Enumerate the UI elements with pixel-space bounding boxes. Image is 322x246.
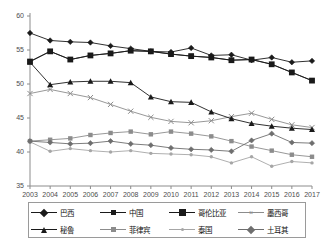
legend-glyph: × xyxy=(248,209,255,216)
legend-glyph xyxy=(40,208,48,216)
data-point-diamond xyxy=(47,38,52,43)
data-point-dot xyxy=(189,153,192,156)
data-point-square xyxy=(189,54,193,58)
data-point-triangle xyxy=(148,94,154,100)
data-point-dot xyxy=(169,152,172,155)
legend-item-3[interactable]: ×墨西哥 xyxy=(236,204,305,221)
data-point-dot xyxy=(69,147,72,150)
legend-glyph xyxy=(181,228,185,232)
data-point-square xyxy=(270,62,274,66)
x-axis-tick-label: 2012 xyxy=(201,191,221,198)
legend-item-label: 墨西哥 xyxy=(267,207,288,218)
data-point-cross xyxy=(269,117,274,122)
x-axis-tick-label: 2017 xyxy=(302,191,322,198)
data-point-triangle xyxy=(208,109,214,115)
data-point-square-gray xyxy=(229,139,233,143)
x-axis-tick-label: 2014 xyxy=(242,191,262,198)
data-point-square xyxy=(88,53,92,57)
data-point-dot xyxy=(89,149,92,152)
data-point-diamond-gray xyxy=(88,141,93,146)
x-axis-tick-label: 2007 xyxy=(101,191,121,198)
data-point-diamond xyxy=(229,52,234,57)
data-point-diamond-gray xyxy=(309,141,314,146)
data-point-diamond-gray xyxy=(269,131,274,136)
data-point-diamond-gray xyxy=(168,145,173,150)
legend-item-label: 巴西 xyxy=(60,207,74,218)
data-point-diamond-gray xyxy=(148,143,153,148)
legend-item-label: 土耳其 xyxy=(267,224,288,235)
data-point-dot xyxy=(270,165,273,168)
y-axis-tick-label: 40 xyxy=(8,148,24,155)
x-axis-tick-label: 2006 xyxy=(80,191,100,198)
x-axis-tick-label: 2013 xyxy=(221,191,241,198)
data-point-diamond-gray xyxy=(229,149,234,154)
legend-item-label: 中国 xyxy=(129,207,143,218)
data-point-square-gray xyxy=(189,131,193,135)
data-point-square xyxy=(68,57,72,61)
data-point-dot xyxy=(109,150,112,153)
data-point-diamond-gray xyxy=(209,147,214,152)
legend-glyph xyxy=(41,227,47,233)
data-point-dot xyxy=(149,152,152,155)
y-axis-tick-label: 50 xyxy=(8,80,24,87)
data-point-dot xyxy=(230,161,233,164)
data-point-diamond xyxy=(289,60,294,65)
x-axis-tick-label: 2015 xyxy=(262,191,282,198)
data-point-diamond-gray xyxy=(249,138,254,143)
data-point-square-gray xyxy=(169,129,173,133)
data-point-dot xyxy=(48,150,51,153)
legend-glyph xyxy=(111,227,116,232)
y-axis-tick-label: 35 xyxy=(8,182,24,189)
data-point-square-gray xyxy=(310,155,314,159)
data-point-square xyxy=(28,59,32,63)
legend-item-6[interactable]: 泰国 xyxy=(167,221,236,238)
legend-marker-triangle xyxy=(31,224,57,236)
data-point-square-gray xyxy=(290,153,294,157)
legend-item-0[interactable]: 巴西 xyxy=(29,204,98,221)
data-point-dot xyxy=(290,160,293,163)
data-point-square-gray xyxy=(88,133,92,137)
data-point-square xyxy=(108,51,112,55)
data-point-diamond xyxy=(88,40,93,45)
data-point-square xyxy=(229,58,233,62)
legend-marker-square xyxy=(100,207,126,219)
legend-item-7[interactable]: 土耳其 xyxy=(236,221,305,238)
data-point-cross xyxy=(128,109,133,114)
y-axis-tick-label: 60 xyxy=(8,12,24,19)
data-point-diamond-gray xyxy=(108,139,113,144)
data-point-diamond-gray xyxy=(68,141,73,146)
legend-glyph xyxy=(111,210,116,215)
legend-item-label: 菲律宾 xyxy=(129,224,150,235)
data-point-square-gray xyxy=(68,136,72,140)
data-point-diamond-gray xyxy=(289,140,294,145)
data-point-diamond-gray xyxy=(189,147,194,152)
data-point-diamond xyxy=(108,43,113,48)
data-point-square xyxy=(48,49,52,53)
data-point-diamond xyxy=(68,39,73,44)
data-point-square xyxy=(310,78,314,82)
legend-item-label: 哥伦比亚 xyxy=(198,207,226,218)
legend-item-5[interactable]: 菲律宾 xyxy=(98,221,167,238)
data-point-square xyxy=(290,70,294,74)
legend-marker-square-gray xyxy=(100,224,126,236)
data-point-square-gray xyxy=(249,144,253,148)
legend-marker-cross: × xyxy=(238,207,264,219)
legend-item-2[interactable]: 哥伦比亚 xyxy=(167,204,236,221)
data-point-square-gray xyxy=(270,148,274,152)
legend-item-4[interactable]: 秘鲁 xyxy=(29,221,98,238)
y-axis-tick-label: 45 xyxy=(8,114,24,121)
legend: 巴西中国哥伦比亚×墨西哥 秘鲁菲律宾泰国土耳其 xyxy=(28,202,306,238)
data-point-dot xyxy=(250,155,253,158)
data-point-dot xyxy=(210,155,213,158)
data-point-square-gray xyxy=(209,134,213,138)
data-point-square-gray xyxy=(149,132,153,136)
x-axis-tick-label: 2004 xyxy=(40,191,60,198)
legend-item-1[interactable]: 中国 xyxy=(98,204,167,221)
x-axis-tick-label: 2005 xyxy=(60,191,80,198)
data-point-diamond xyxy=(188,45,193,50)
legend-marker-diamond-gray xyxy=(238,224,264,236)
series-layer xyxy=(27,30,315,168)
legend-item-label: 秘鲁 xyxy=(60,224,74,235)
data-point-square-gray xyxy=(129,129,133,133)
